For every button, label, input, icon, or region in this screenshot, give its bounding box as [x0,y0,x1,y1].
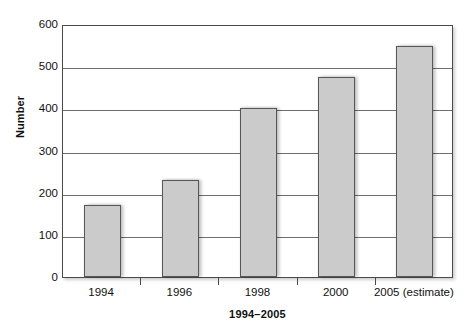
y-tick-label: 0 [24,272,58,284]
x-tick-label: 2000 [291,287,381,299]
x-axis-tick [218,278,219,285]
y-tick-label: 600 [24,19,58,31]
bar-series [63,26,452,277]
y-tick-label: 500 [24,61,58,73]
x-tick-label: 2005 (estimate) [369,287,459,299]
x-tick-label: 1996 [134,287,224,299]
y-axis-tick-labels: 0100200300400500600 [22,0,58,332]
x-axis-tick [375,278,376,285]
x-axis-tick-labels: 19941996199820002005 (estimate) [62,287,453,303]
bar [318,77,355,277]
x-axis-tick [140,278,141,285]
bar-chart: Number 0100200300400500600 1994199619982… [0,0,475,332]
x-axis-ticks [62,278,453,286]
bar [162,180,199,277]
bar [396,46,433,277]
plot-area [62,25,453,278]
x-axis-tick [297,278,298,285]
y-tick-label: 300 [24,146,58,158]
x-tick-label: 1998 [212,287,302,299]
x-axis-title: 1994–2005 [62,308,453,320]
bar [84,205,121,277]
y-tick-label: 200 [24,188,58,200]
x-tick-label: 1994 [56,287,146,299]
y-tick-label: 400 [24,103,58,115]
bar [240,108,277,277]
y-tick-label: 100 [24,230,58,242]
